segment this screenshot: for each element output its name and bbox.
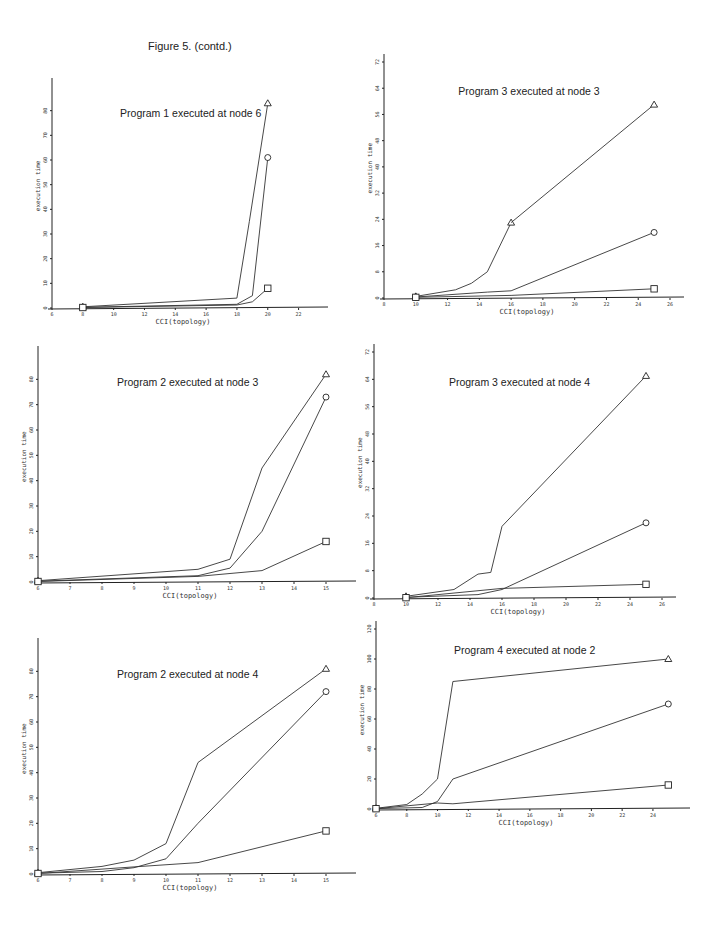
triangle-marker-icon <box>323 665 330 671</box>
series-circle <box>373 701 671 812</box>
y-tick-label: 8 <box>374 270 380 273</box>
x-tick-label: 14 <box>467 601 473 607</box>
y-tick-label: 50 <box>42 182 48 188</box>
y-axis-label: execution time <box>366 143 373 194</box>
triangle-marker-icon <box>665 656 672 662</box>
series-circle <box>403 520 649 600</box>
square-marker-icon <box>323 828 329 834</box>
y-tick-label: 80 <box>42 108 48 114</box>
x-tick-label: 15 <box>323 877 329 883</box>
y-tick-label: 30 <box>28 503 34 509</box>
y-tick-label: 0 <box>42 306 48 309</box>
y-tick-label: 70 <box>28 402 34 408</box>
x-tick-label: 20 <box>588 812 594 818</box>
y-tick-label: 40 <box>28 770 34 776</box>
series-triangle <box>373 656 672 811</box>
circle-marker-icon <box>323 689 329 695</box>
x-tick-label: 8 <box>81 311 84 317</box>
square-marker-icon <box>403 594 409 600</box>
y-tick-label: 32 <box>364 486 370 492</box>
y-tick-label: 20 <box>42 256 48 262</box>
y-tick-label: 40 <box>364 458 370 464</box>
chart-p2n3: 678910111213141501020304050607080CCI(top… <box>20 330 360 610</box>
y-tick-label: 56 <box>374 111 380 117</box>
y-tick-label: 40 <box>42 206 48 212</box>
x-tick-label: 10 <box>435 812 441 818</box>
x-tick-label: 11 <box>195 585 201 591</box>
x-tick-label: 10 <box>413 301 419 307</box>
x-tick-label: 22 <box>296 311 302 317</box>
triangle-marker-icon <box>323 371 330 377</box>
x-tick-label: 12 <box>445 301 451 307</box>
circle-marker-icon <box>665 701 671 707</box>
x-axis-label: CCI(topology) <box>500 308 555 316</box>
x-axis-label: CCI(topology) <box>491 608 546 616</box>
square-marker-icon <box>651 286 657 292</box>
y-tick-label: 40 <box>366 746 372 752</box>
x-tick-label: 13 <box>259 877 265 883</box>
series-square <box>80 285 271 311</box>
x-tick-label: 18 <box>558 812 564 818</box>
y-tick-label: 80 <box>28 376 34 382</box>
chart-title: Program 3 executed at node 4 <box>449 376 590 388</box>
x-tick-label: 14 <box>291 585 297 591</box>
chart-title: Program 2 executed at node 4 <box>117 668 258 680</box>
y-tick-label: 48 <box>374 138 380 144</box>
x-tick-label: 6 <box>36 585 39 591</box>
x-tick-label: 18 <box>234 311 240 317</box>
y-tick-label: 60 <box>28 427 34 433</box>
y-tick-label: 80 <box>366 686 372 692</box>
series-triangle <box>35 665 330 875</box>
x-tick-label: 20 <box>572 301 578 307</box>
y-tick-label: 50 <box>28 744 34 750</box>
square-marker-icon <box>80 304 86 310</box>
y-tick-label: 70 <box>42 132 48 138</box>
square-marker-icon <box>323 538 329 544</box>
x-tick-label: 15 <box>323 585 329 591</box>
y-tick-label: 50 <box>28 452 34 458</box>
chart-p1n6: 681012141618202201020304050607080CCI(top… <box>20 56 320 322</box>
chart-p2n4: 678910111213141501020304050607080CCI(top… <box>20 620 360 890</box>
y-tick-label: 100 <box>366 654 372 663</box>
square-marker-icon <box>373 806 379 812</box>
x-tick-label: 12 <box>465 812 471 818</box>
x-tick-label: 22 <box>595 601 601 607</box>
x-tick-label: 8 <box>100 585 103 591</box>
x-tick-label: 18 <box>540 301 546 307</box>
x-tick-label: 13 <box>259 585 265 591</box>
x-tick-label: 16 <box>203 311 209 317</box>
y-axis-label: execution time <box>34 160 41 211</box>
x-axis-label: CCI(topology) <box>163 592 218 600</box>
series-circle <box>80 155 271 311</box>
x-tick-label: 22 <box>603 301 609 307</box>
y-tick-label: 0 <box>364 596 370 599</box>
series-square <box>35 828 329 877</box>
y-tick-label: 70 <box>28 694 34 700</box>
triangle-marker-icon <box>651 101 658 107</box>
y-tick-label: 64 <box>364 376 370 382</box>
x-tick-label: 10 <box>163 585 169 591</box>
y-tick-label: 0 <box>366 807 372 810</box>
y-tick-label: 30 <box>28 795 34 801</box>
y-tick-label: 40 <box>374 164 380 170</box>
x-tick-label: 10 <box>111 311 117 317</box>
x-axis-label: CCI(topology) <box>156 318 211 326</box>
x-axis-label: CCI(topology) <box>163 884 218 892</box>
y-tick-label: 72 <box>374 59 380 65</box>
y-tick-label: 24 <box>374 216 380 222</box>
x-tick-label: 26 <box>667 301 673 307</box>
square-marker-icon <box>665 782 671 788</box>
series-triangle <box>79 100 271 310</box>
circle-marker-icon <box>651 229 657 235</box>
chart-title: Program 1 executed at node 6 <box>120 107 261 119</box>
chart-title: Program 3 executed at node 3 <box>458 85 599 97</box>
y-tick-label: 20 <box>366 776 372 782</box>
y-tick-label: 10 <box>28 554 34 560</box>
x-tick-label: 16 <box>499 601 505 607</box>
x-tick-label: 8 <box>405 812 408 818</box>
square-marker-icon <box>265 285 271 291</box>
y-axis-label: execution time <box>358 684 365 735</box>
x-tick-label: 26 <box>659 601 665 607</box>
chart-title: Program 2 executed at node 3 <box>117 376 258 388</box>
y-tick-label: 60 <box>28 719 34 725</box>
